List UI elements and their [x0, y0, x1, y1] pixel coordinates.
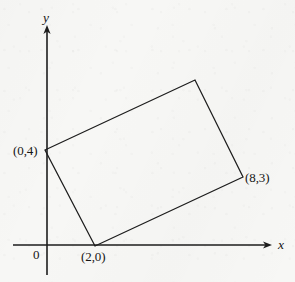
vertex-label-2-0: (2,0) — [81, 250, 105, 263]
vertex-label-8-3: (8,3) — [245, 171, 269, 184]
y-axis-label: y — [43, 11, 49, 25]
coordinate-plane-figure: y x 0 (0,4) (2,0) (8,3) — [0, 0, 295, 282]
vertex-label-0-4: (0,4) — [13, 144, 37, 157]
x-axis-label: x — [278, 238, 284, 252]
origin-label: 0 — [33, 248, 39, 261]
x-axis — [13, 241, 272, 248]
geometry-diagram — [0, 0, 295, 282]
rectangle-shape — [45, 80, 243, 246]
